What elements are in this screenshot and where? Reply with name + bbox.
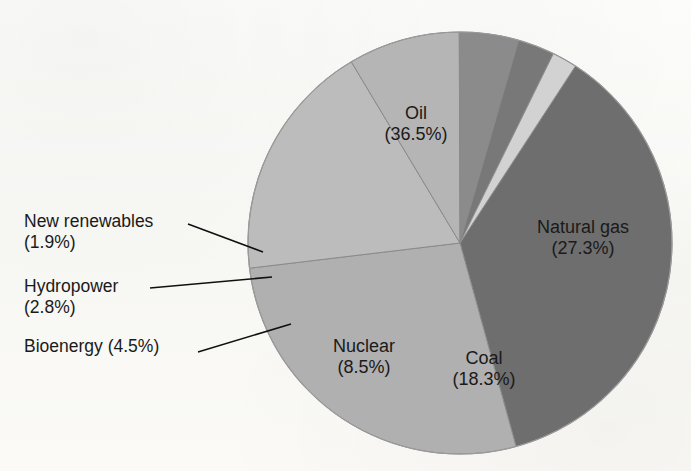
slice-label-name-hydropower: Hydropower <box>24 276 118 297</box>
slice-label-value-bioenergy: (4.5%) <box>108 336 160 356</box>
slice-label-coal: Coal(18.3%) <box>452 348 515 390</box>
slice-label-bioenergy: Bioenergy (4.5%) <box>24 336 159 357</box>
slice-label-name-natural-gas: Natural gas <box>537 217 629 238</box>
slice-label-value-nuclear: (8.5%) <box>333 357 395 378</box>
slice-label-name-nuclear: Nuclear <box>333 336 395 357</box>
slice-label-name-coal: Coal <box>452 348 515 369</box>
slice-label-name-oil: Oil <box>384 103 447 124</box>
slice-label-value-coal: (18.3%) <box>452 369 515 390</box>
slice-label-name-bioenergy: Bioenergy <box>24 336 108 356</box>
slice-label-hydropower: Hydropower(2.8%) <box>24 276 118 317</box>
slice-label-value-hydropower: (2.8%) <box>24 297 118 318</box>
slice-label-new-renewables: New renewables(1.9%) <box>24 211 153 252</box>
slice-label-value-oil: (36.5%) <box>384 124 447 145</box>
slice-label-value-new-renewables: (1.9%) <box>24 232 153 253</box>
slice-label-name-new-renewables: New renewables <box>24 211 153 232</box>
slice-label-value-natural-gas: (27.3%) <box>537 238 629 259</box>
slice-label-nuclear: Nuclear(8.5%) <box>333 336 395 378</box>
pie-chart-figure: Oil(36.5%)Natural gas(27.3%)Coal(18.3%)N… <box>0 0 691 471</box>
slice-label-oil: Oil(36.5%) <box>384 103 447 145</box>
slice-label-natural-gas: Natural gas(27.3%) <box>537 217 629 259</box>
